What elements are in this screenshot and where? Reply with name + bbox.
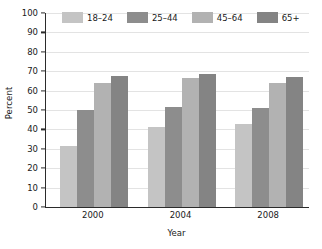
bar-group [235, 13, 303, 207]
y-axis-ticks: 0102030405060708090100 [0, 13, 45, 207]
legend-label: 45–64 [217, 13, 243, 23]
y-axis-tick-label: 50 [27, 105, 38, 115]
y-axis-tick-label: 70 [27, 66, 38, 76]
legend-item[interactable]: 18–24 [62, 12, 113, 23]
legend-swatch [257, 12, 278, 23]
bar-chart: Percent 0102030405060708090100 200020042… [0, 0, 322, 249]
legend-item[interactable]: 65+ [257, 12, 300, 23]
legend-swatch [192, 12, 213, 23]
x-axis-tick-label: 2004 [170, 210, 192, 220]
y-axis-tick-label: 0 [33, 202, 38, 212]
y-axis-tick-label: 40 [27, 124, 38, 134]
legend-label: 65+ [282, 13, 300, 23]
bar-group [60, 13, 128, 207]
y-axis-tick-label: 10 [27, 183, 38, 193]
bar [148, 127, 165, 208]
legend-swatch [62, 12, 83, 23]
y-axis-tick-label: 80 [27, 47, 38, 57]
bar [182, 78, 199, 207]
y-axis-tick-label: 100 [22, 8, 38, 18]
legend-item[interactable]: 25–44 [127, 12, 178, 23]
bar [111, 76, 128, 207]
bar [60, 146, 77, 207]
x-axis-tick-label: 2008 [257, 210, 279, 220]
bar [94, 83, 111, 207]
legend-item[interactable]: 45–64 [192, 12, 243, 23]
bar [252, 108, 269, 207]
x-axis-tick-label: 2000 [82, 210, 104, 220]
y-axis-tick-label: 30 [27, 144, 38, 154]
legend-swatch [127, 12, 148, 23]
bar [199, 74, 216, 207]
legend: 18–2425–4445–6465+ [62, 12, 300, 23]
y-axis-tick-label: 20 [27, 163, 38, 173]
y-axis-tick-label: 90 [27, 27, 38, 37]
bars-layer [46, 13, 309, 207]
bar [235, 124, 252, 207]
bar [269, 83, 286, 207]
bar [77, 110, 94, 207]
x-axis-ticks: 200020042008 [45, 210, 308, 226]
legend-label: 18–24 [87, 13, 113, 23]
bar [286, 77, 303, 207]
bar-group [148, 13, 216, 207]
legend-label: 25–44 [152, 13, 178, 23]
plot-area [45, 13, 309, 208]
bar [165, 107, 182, 207]
x-axis-title: Year [45, 228, 308, 238]
y-axis-tick-label: 60 [27, 86, 38, 96]
